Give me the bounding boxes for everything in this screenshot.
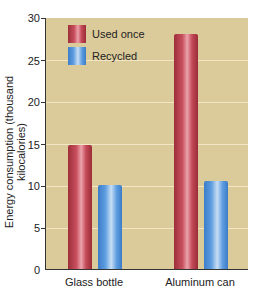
bar-glass-recycled [98,185,122,269]
legend-label-used-once: Used once [92,28,145,40]
legend-swatch-recycled [68,47,86,65]
y-tick [41,18,46,19]
y-tick [41,60,46,61]
plot-area: Used once Recycled [45,18,248,270]
legend-label-recycled: Recycled [92,50,137,62]
x-tick-label: Glass bottle [44,276,144,288]
y-tick-label: 15 [20,139,40,151]
y-tick [41,186,46,187]
y-tick-label: 30 [20,12,40,24]
y-tick-label: 0 [20,264,40,276]
bar-aluminum-used-once [174,34,198,269]
bar-glass-used-once [68,145,92,269]
y-tick-label: 25 [20,55,40,67]
y-tick-label: 20 [20,96,40,108]
x-tick-label: Aluminum can [150,276,250,288]
y-tick-label: 5 [20,222,40,234]
y-tick [41,102,46,103]
gridline [46,102,248,103]
y-tick [41,228,46,229]
y-tick-label: 10 [20,180,40,192]
y-tick [41,144,46,145]
bar-aluminum-recycled [204,181,228,269]
legend-swatch-used-once [68,25,86,43]
